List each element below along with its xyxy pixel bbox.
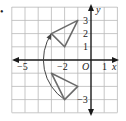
x-axis-label: x bbox=[111, 61, 117, 72]
bullet-marker: • bbox=[0, 6, 4, 17]
x-tick-label: 1 bbox=[102, 61, 107, 72]
arc-arrowhead-icon bbox=[47, 34, 52, 40]
x-tick-label: −5 bbox=[17, 61, 28, 72]
origin-label: O bbox=[82, 61, 89, 72]
axis-labels: y x O −5 −2 1 3 2 1 −3 bbox=[17, 4, 117, 105]
y-tick-label: 3 bbox=[83, 15, 88, 26]
y-tick-label: −3 bbox=[77, 94, 88, 105]
y-tick-label: 1 bbox=[83, 41, 88, 52]
coordinate-plane-figure: • y x O −5 −2 1 3 2 1 bbox=[0, 0, 126, 121]
y-axis-label: y bbox=[95, 4, 101, 15]
y-tick-label: 2 bbox=[83, 28, 88, 39]
x-tick-label: −2 bbox=[57, 61, 68, 72]
